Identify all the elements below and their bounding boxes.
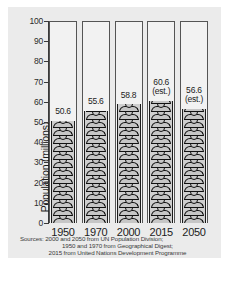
person-icon [150, 215, 172, 223]
bar-column[interactable]: 58.82000 [115, 21, 143, 223]
person-icon [118, 199, 140, 208]
bar-value-number: 50.6 [55, 106, 71, 116]
person-icon [118, 175, 140, 184]
person-icon [183, 167, 205, 176]
person-icon [183, 175, 205, 184]
person-icon [150, 143, 172, 152]
sources-line-3: 2015 from United Nations Development Pro… [20, 249, 215, 256]
y-tick-label: 90 [34, 36, 43, 46]
person-icon [52, 167, 74, 176]
plot-area: Population (millions) 010203040506070809… [48, 21, 208, 223]
y-tick-label: 30 [34, 157, 43, 167]
person-icon [183, 111, 205, 120]
sources-line-1: Sources: 2000 and 2050 from UN Populatio… [20, 235, 215, 242]
person-icon [118, 151, 140, 160]
person-icon [85, 199, 107, 208]
person-icon [150, 159, 172, 168]
person-icon [52, 215, 74, 223]
person-stack [183, 109, 205, 223]
person-icon [150, 135, 172, 144]
person-icon [52, 191, 74, 200]
sources-note: Sources: 2000 and 2050 from UN Populatio… [20, 235, 215, 257]
person-icon [118, 167, 140, 176]
person-icon [52, 207, 74, 216]
person-icon [150, 207, 172, 216]
person-icon [85, 127, 107, 136]
person-icon [52, 151, 74, 160]
person-icon [183, 191, 205, 200]
person-icon [183, 119, 205, 128]
bar-value-label: 55.6 [88, 97, 104, 107]
bar-value-label: 56.6(est.) [185, 86, 203, 105]
bar-column[interactable]: 60.6(est.)2015 [147, 21, 175, 223]
person-icon [150, 191, 172, 200]
bar-value-number: 60.6 [153, 77, 169, 87]
bar-value-number: 56.6 [186, 85, 202, 95]
bar-columns: 50.6195055.6197058.8200060.6(est.)201556… [49, 21, 208, 223]
person-icon [85, 111, 107, 112]
person-icon [183, 183, 205, 192]
person-icon [85, 111, 107, 120]
chart-panel: Population (millions) 010203040506070809… [8, 7, 221, 258]
person-icon [118, 111, 140, 120]
y-tick-label: 20 [34, 178, 43, 188]
bar-value-label: 58.8 [121, 91, 137, 101]
y-tick-label: 100 [29, 16, 43, 26]
pictogram-bar[interactable] [117, 104, 141, 223]
person-icon [52, 121, 74, 128]
person-stack [150, 101, 172, 223]
sources-line-2: 1950 and 1970 from Geographical Digest; [20, 242, 215, 249]
person-icon [118, 104, 140, 112]
person-icon [52, 183, 74, 192]
person-icon [118, 215, 140, 223]
person-icon [183, 127, 205, 136]
pictogram-bar[interactable] [51, 121, 75, 223]
person-icon [183, 143, 205, 152]
person-icon [150, 199, 172, 208]
person-icon [183, 215, 205, 223]
person-icon [85, 167, 107, 176]
person-icon [183, 207, 205, 216]
person-stack [52, 121, 74, 223]
person-icon [52, 127, 74, 136]
person-icon [52, 159, 74, 168]
person-icon [150, 167, 172, 176]
bar-column[interactable]: 56.6(est.)2050 [180, 21, 208, 223]
person-icon [85, 159, 107, 168]
person-icon [183, 135, 205, 144]
y-tick-label: 40 [34, 137, 43, 147]
person-icon [118, 127, 140, 136]
person-icon [150, 111, 172, 120]
bar-value-number: 55.6 [88, 96, 104, 106]
person-icon [85, 215, 107, 223]
bar-column[interactable]: 50.61950 [49, 21, 77, 223]
person-icon [85, 151, 107, 160]
y-tick-label: 70 [34, 77, 43, 87]
y-tick-label: 60 [34, 97, 43, 107]
person-icon [118, 191, 140, 200]
pictogram-bar[interactable] [182, 109, 206, 223]
person-icon [85, 143, 107, 152]
person-icon [118, 135, 140, 144]
person-icon [150, 103, 172, 112]
person-icon [118, 119, 140, 128]
person-icon [150, 101, 172, 104]
bar-column[interactable]: 55.61970 [82, 21, 110, 223]
person-icon [52, 199, 74, 208]
person-icon [85, 207, 107, 216]
bar-value-estimate: (est.) [152, 87, 170, 97]
bar-value-label: 60.6(est.) [152, 78, 170, 97]
pictogram-bar[interactable] [84, 111, 108, 223]
y-tick-label: 80 [34, 56, 43, 66]
person-icon [85, 119, 107, 128]
person-icon [85, 191, 107, 200]
person-icon [85, 135, 107, 144]
y-tick-label: 10 [34, 198, 43, 208]
pictogram-bar[interactable] [149, 101, 173, 223]
person-stack [85, 111, 107, 223]
person-icon [118, 183, 140, 192]
y-tick-mark [44, 223, 49, 224]
person-icon [118, 207, 140, 216]
person-icon [183, 109, 205, 112]
person-icon [52, 175, 74, 184]
